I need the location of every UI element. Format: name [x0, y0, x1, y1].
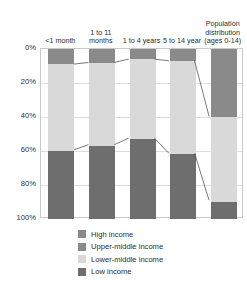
legend-label-0: High income — [91, 230, 133, 239]
legend-label-1: Upper-middle income — [91, 242, 163, 251]
legend-item-0: High income — [78, 228, 243, 240]
legend-item-1: Upper-middle income — [78, 241, 243, 253]
connector-top-2 — [154, 59, 168, 61]
connector-bottom-3 — [195, 153, 209, 200]
connector-bottom-2 — [154, 138, 168, 153]
legend-item-2: Lower-middle income — [78, 253, 243, 265]
y-axis-tick-3: 60% — [21, 146, 36, 154]
legend-item-3: Low income — [78, 266, 243, 278]
column-header-1: 1 to 11 months — [79, 29, 124, 46]
legend-label-3: Low income — [91, 267, 132, 276]
stacked-bar-chart: <1 month1 to 11 months1 to 4 years5 to 1… — [0, 0, 247, 294]
column-header-2: 1 to 4 years — [119, 37, 164, 46]
column-header-4: Population distribution (ages 0-14) — [200, 20, 245, 46]
y-axis-tick-5: 100% — [17, 214, 36, 222]
connector-lines — [41, 49, 242, 217]
connector-top-1 — [114, 59, 128, 62]
column-headers: <1 month1 to 11 months1 to 4 years5 to 1… — [40, 2, 243, 46]
connector-bottom-0 — [74, 145, 88, 150]
y-axis-tick-4: 80% — [21, 180, 36, 188]
connector-top-0 — [74, 62, 88, 64]
y-axis-tick-1: 20% — [21, 78, 36, 86]
column-header-0: <1 month — [38, 37, 83, 46]
plot-area — [40, 48, 243, 218]
column-header-3: 5 to 14 year — [160, 37, 205, 46]
connector-bottom-1 — [114, 138, 128, 145]
y-axis-tick-0: 0% — [25, 44, 36, 52]
legend-swatch-icon-3 — [78, 268, 86, 276]
connector-top-3 — [195, 61, 209, 116]
y-axis: 0%20%40%60%80%100% — [0, 0, 40, 294]
legend-swatch-icon-0 — [78, 230, 86, 238]
legend-swatch-icon-2 — [78, 255, 86, 263]
legend-swatch-icon-1 — [78, 243, 86, 251]
legend-label-2: Lower-middle income — [91, 255, 163, 264]
legend: High incomeUpper-middle incomeLower-midd… — [78, 228, 243, 278]
y-axis-tick-2: 40% — [21, 112, 36, 120]
